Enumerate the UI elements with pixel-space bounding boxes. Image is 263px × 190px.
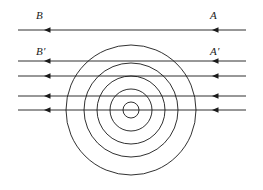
line-3-arrowhead-2 <box>212 93 219 98</box>
line-2-arrowhead-1 <box>44 73 51 78</box>
line-1-arrowhead-1 <box>44 58 51 63</box>
figure-container: BAB′A′ <box>0 0 263 190</box>
label-B-prime: B′ <box>36 46 46 57</box>
line-BA-arrowhead-2 <box>212 27 219 32</box>
line-2-arrowhead-2 <box>212 73 219 78</box>
label-A-prime: A′ <box>210 46 220 57</box>
straight-field-lines <box>18 30 246 110</box>
line-1-arrowhead-2 <box>212 58 219 63</box>
label-A: A <box>210 10 217 21</box>
line-4-arrowhead-2 <box>212 107 219 112</box>
line-BA-arrowhead-1 <box>44 27 51 32</box>
label-B: B <box>36 10 43 21</box>
field-line-arrowheads <box>44 27 219 112</box>
line-3-arrowhead-1 <box>44 93 51 98</box>
field-line-diagram <box>0 0 263 190</box>
line-4-arrowhead-1 <box>44 107 51 112</box>
